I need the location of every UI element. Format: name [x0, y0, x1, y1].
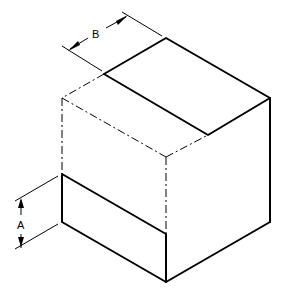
- top-slab: [104, 38, 270, 135]
- arrow-head-icon: [68, 41, 80, 51]
- dimension-a-label: A: [17, 219, 25, 231]
- dimension-b-label: B: [92, 28, 99, 40]
- isometric-cube-diagram: B A: [0, 0, 281, 289]
- arrow-head-icon: [18, 237, 24, 247]
- dimension-b: B: [62, 12, 162, 71]
- phantom-lines: [62, 74, 208, 234]
- right-face: [166, 98, 270, 282]
- bottom-block: [62, 174, 166, 282]
- arrow-head-icon: [18, 198, 24, 208]
- arrow-head-icon: [116, 15, 128, 25]
- dimension-a: A: [15, 176, 58, 249]
